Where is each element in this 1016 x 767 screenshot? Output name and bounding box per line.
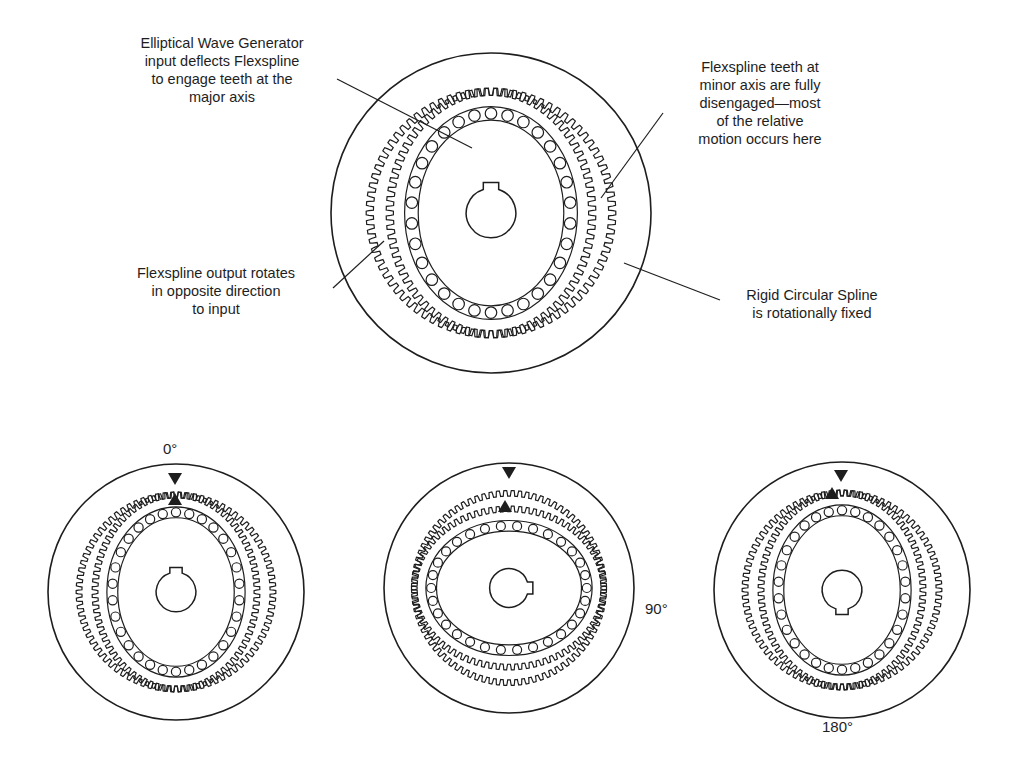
bearing-ball <box>851 507 860 516</box>
bearing-ball <box>543 530 552 539</box>
bearing-ball <box>124 641 133 650</box>
bearing-ball <box>885 639 894 648</box>
sequence-diagram-180-degrees <box>714 462 970 718</box>
leader-flexspline-output <box>333 241 384 288</box>
diagram-canvas <box>0 0 1016 767</box>
bearing-ball <box>782 546 791 555</box>
bearing-ball <box>543 637 552 646</box>
bearing-ball <box>863 658 872 667</box>
wave-generator-cam <box>118 518 234 666</box>
bearing-outer-race <box>405 107 578 320</box>
bearing-ball <box>410 238 422 250</box>
callout-line: motion occurs here <box>665 130 855 148</box>
bearing-ball <box>837 506 846 515</box>
bearing-ball <box>782 625 791 634</box>
bearing-ball <box>824 663 833 672</box>
bearing-ball <box>145 515 154 524</box>
bearing-ball <box>452 537 461 546</box>
wave-generator-cam <box>418 120 564 306</box>
bearing-ball <box>518 298 530 310</box>
bearing-ball <box>158 509 167 518</box>
bearing-ball <box>406 197 418 209</box>
angle-label-0: 0° <box>163 440 177 457</box>
bearing-ball <box>469 110 481 122</box>
bearing-ball <box>480 643 489 652</box>
bearing-ball <box>554 157 566 169</box>
bearing-ball <box>800 521 809 530</box>
callout-line: Flexspline output rotates <box>104 264 328 282</box>
callout-leader-lines <box>333 79 720 300</box>
bearing-ball <box>442 547 451 556</box>
bearing-ball <box>124 534 133 543</box>
wave-generator-cam <box>784 516 900 664</box>
bearing-ball <box>564 197 576 209</box>
bearing-ball <box>851 663 860 672</box>
bearing-ball <box>197 660 206 669</box>
bearing-ball <box>171 508 180 517</box>
bearing-ball <box>824 507 833 516</box>
bearing-ball <box>544 141 556 153</box>
circular-spline-reference-marker <box>502 467 516 479</box>
bearing-ball <box>885 532 894 541</box>
bearing-ball <box>485 108 497 120</box>
bearing-ball <box>232 563 241 572</box>
callout-line: to engage teeth at the <box>112 70 332 88</box>
callout-line: major axis <box>112 88 332 106</box>
bearing-ball <box>416 257 428 269</box>
keyed-hub-bore <box>466 182 516 237</box>
bearing-ball <box>811 513 820 522</box>
bearing-ball <box>235 596 244 605</box>
outer-housing-circle <box>384 463 634 713</box>
bearing-ball <box>576 558 585 567</box>
flexspline-reference-marker <box>498 500 512 512</box>
callout-line: disengaged—most <box>665 94 855 112</box>
leader-minor-axis <box>601 113 663 198</box>
callout-minor-axis: Flexspline teeth at minor axis are fully… <box>665 58 855 148</box>
bearing-ball <box>898 610 907 619</box>
bearing-ball <box>480 524 489 533</box>
bearing-ball <box>452 630 461 639</box>
bearing-ball <box>406 218 418 230</box>
callout-circular-spline: Rigid Circular Spline is rotationally fi… <box>726 286 898 322</box>
circular-spline-teeth <box>76 492 276 692</box>
bearing-ball <box>433 609 442 618</box>
bearing-ball <box>466 637 475 646</box>
bearing-ball <box>496 645 505 654</box>
callout-line: Flexspline teeth at <box>665 58 855 76</box>
bearing-ball <box>496 522 505 531</box>
bearing-ball <box>428 571 437 580</box>
bearing-ball <box>513 522 522 531</box>
bearing-ball <box>518 116 530 128</box>
bearing-ball <box>774 594 783 603</box>
bearing-ball <box>427 584 436 593</box>
callout-line: is rotationally fixed <box>726 304 898 322</box>
bearing-ball <box>811 658 820 667</box>
callout-line: input deflects Flexspline <box>112 52 332 70</box>
leader-wave-generator <box>337 79 472 148</box>
bearing-ball <box>219 534 228 543</box>
harmonic-drive-figure: Elliptical Wave Generator input deflects… <box>0 0 1016 767</box>
leader-circular-spline <box>624 263 720 300</box>
callout-line: Rigid Circular Spline <box>726 286 898 304</box>
callout-line: Elliptical Wave Generator <box>112 34 332 52</box>
bearing-ball <box>116 627 125 636</box>
bearing-ball <box>219 641 228 650</box>
bearing-ball <box>790 639 799 648</box>
bearing-ball <box>502 305 514 317</box>
bearing-ball <box>532 127 544 139</box>
bearing-ball <box>777 561 786 570</box>
bearing-ball <box>774 577 783 586</box>
callout-line: of the relative <box>665 112 855 130</box>
bearing-ball <box>227 548 236 557</box>
bearing-ball <box>554 257 566 269</box>
angle-label-180: 180° <box>822 718 853 735</box>
bearing-ball <box>134 652 143 661</box>
bearing-ball <box>111 563 120 572</box>
callout-line: minor axis are fully <box>665 76 855 94</box>
bearing-ball <box>209 523 218 532</box>
bearing-ball <box>901 594 910 603</box>
bearing-outer-race <box>107 507 245 677</box>
bearing-ball <box>466 530 475 539</box>
outer-housing-circle <box>714 462 970 718</box>
bearing-ball <box>875 521 884 530</box>
